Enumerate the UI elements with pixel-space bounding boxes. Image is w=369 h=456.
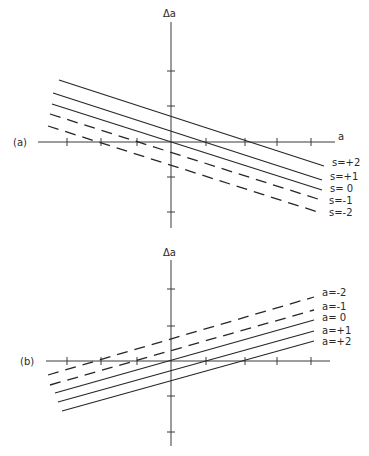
series-label: s=-2 [329,207,353,218]
diagram-canvas: (a) Δa a s=+2s=+1s= 0s=-1s=-2 (b) Δa a=-… [0,0,369,456]
panel-a-lines [48,80,324,213]
series-label: a=+1 [322,325,351,336]
series-label: a=+2 [322,336,351,347]
panel-b-lines [48,297,314,411]
panel-a-label: (a) [13,137,27,148]
series-line [62,341,314,411]
series-line [53,93,322,180]
series-label: s=+1 [330,171,358,182]
series-line [52,104,322,190]
panel-b-y-axis-label: Δa [163,247,176,258]
series-line [50,114,321,200]
panel-b: (b) Δa a=-2a=-1a= 0a=+1a=+2 [20,247,351,446]
series-label: s=+2 [332,157,360,168]
panel-a-line-labels: s=+2s=+1s= 0s=-1s=-2 [329,157,360,218]
panel-a: (a) Δa a s=+2s=+1s= 0s=-1s=-2 [13,8,360,228]
series-label: a= 0 [322,312,346,323]
series-label: a=-1 [322,301,346,312]
panel-b-line-labels: a=-2a=-1a= 0a=+1a=+2 [322,287,351,347]
panel-b-axes [46,260,330,446]
series-line [48,297,314,375]
series-label: s= 0 [330,183,353,194]
figure: (a) Δa a s=+2s=+1s= 0s=-1s=-2 (b) Δa a=-… [0,0,369,456]
series-line [48,126,321,213]
panel-b-label: (b) [20,356,34,367]
series-line [50,310,314,385]
series-label: s=-1 [329,195,353,206]
series-line [55,320,314,393]
panel-a-x-axis-label: a [338,131,344,142]
panel-a-y-axis-label: Δa [163,8,176,19]
panel-a-axes [38,22,335,228]
series-line [59,80,324,166]
series-label: a=-2 [322,287,346,298]
series-line [58,331,314,402]
